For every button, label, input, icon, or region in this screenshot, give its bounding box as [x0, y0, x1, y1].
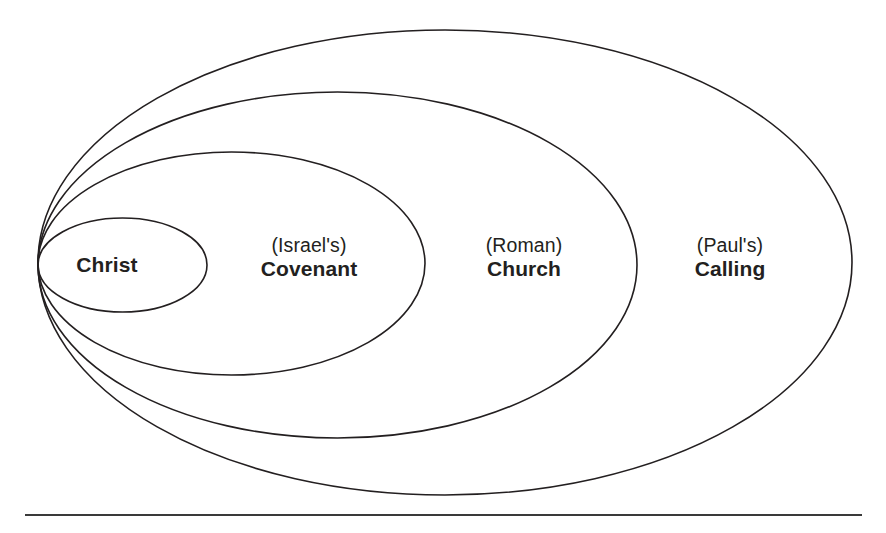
label-covenant-term: Covenant: [261, 257, 357, 281]
label-church-qualifier: (Roman): [486, 235, 563, 257]
label-calling-qualifier: (Paul's): [695, 235, 766, 257]
label-church-term: Church: [486, 257, 563, 281]
diagram-canvas: Christ (Israel's) Covenant (Roman) Churc…: [0, 0, 886, 533]
label-christ: Christ: [76, 253, 137, 277]
label-calling: (Paul's) Calling: [695, 235, 766, 280]
label-church: (Roman) Church: [486, 235, 563, 280]
label-calling-term: Calling: [695, 257, 766, 281]
label-covenant-qualifier: (Israel's): [261, 235, 357, 257]
label-covenant: (Israel's) Covenant: [261, 235, 357, 280]
label-christ-term: Christ: [76, 253, 137, 277]
